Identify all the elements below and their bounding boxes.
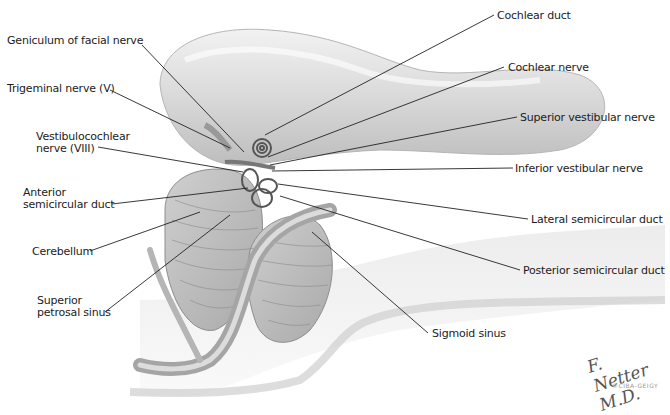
label-anterior-line2: semicircular duct [23, 198, 114, 211]
cochlea [253, 139, 271, 157]
label-cerebellum: Cerebellum [32, 245, 93, 258]
label-inferior-vestibular-nerve: Inferior vestibular nerve [515, 162, 643, 175]
label-sigmoid-sinus: Sigmoid sinus [432, 327, 506, 340]
label-petrosal-line2: petrosal sinus [37, 306, 111, 319]
label-geniculum-of-facial-nerve: Geniculum of facial nerve [7, 34, 143, 47]
label-posterior-semicircular-duct: Posterior semicircular duct [523, 264, 665, 277]
label-cochlear-duct: Cochlear duct [497, 9, 571, 22]
label-superior-vestibular-nerve: Superior vestibular nerve [520, 111, 655, 124]
label-vestibulocochlear-line2: nerve (VIII) [36, 142, 94, 155]
label-trigeminal-nerve: Trigeminal nerve (V) [7, 82, 115, 95]
label-lateral-semicircular-duct: Lateral semicircular duct [531, 213, 663, 226]
copyright-mark: ©CIBA-GEIGY [612, 382, 658, 389]
label-cochlear-nerve: Cochlear nerve [508, 61, 589, 74]
leader-inf-vest [272, 168, 513, 171]
